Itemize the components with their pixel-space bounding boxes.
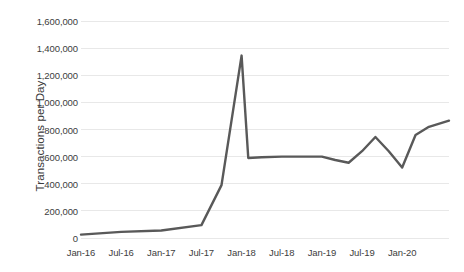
transactions-per-day-line-chart: Transactions per Day 0200,000400,000600,… (0, 0, 464, 272)
data-series-group (81, 56, 449, 235)
series-line (81, 56, 449, 235)
gridlines (81, 21, 449, 238)
plot-area (0, 0, 464, 272)
